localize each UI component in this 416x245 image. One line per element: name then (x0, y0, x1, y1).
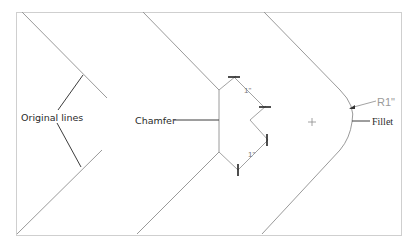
fillet-geometry (262, 12, 353, 234)
radius-label: R1" (377, 96, 395, 108)
drawing-canvas: Original lines Chamfer 1" 1" Fillet R1" (0, 0, 416, 245)
leader-bottom (57, 123, 81, 167)
chamfer-label: Chamfer (135, 115, 176, 126)
chamfer-panel: Chamfer 1" 1" (135, 12, 271, 234)
original-line-bottom (17, 150, 102, 234)
fillet-label: Fillet (372, 116, 393, 127)
ext-line (219, 76, 236, 90)
chamfer-dim-top: 1" (244, 86, 251, 95)
leader-top (58, 75, 83, 110)
original-lines-panel: Original lines (17, 12, 107, 234)
chamfer-dim-bottom: 1" (248, 150, 255, 159)
ext-line (250, 120, 268, 140)
original-lines-label: Original lines (21, 112, 83, 123)
drawing-frame (17, 13, 402, 236)
ext-line (219, 152, 238, 170)
ext-line (250, 106, 266, 120)
original-line-top (22, 12, 107, 98)
fillet-panel: Fillet R1" (262, 12, 395, 234)
radius-arrow-icon (349, 105, 355, 109)
